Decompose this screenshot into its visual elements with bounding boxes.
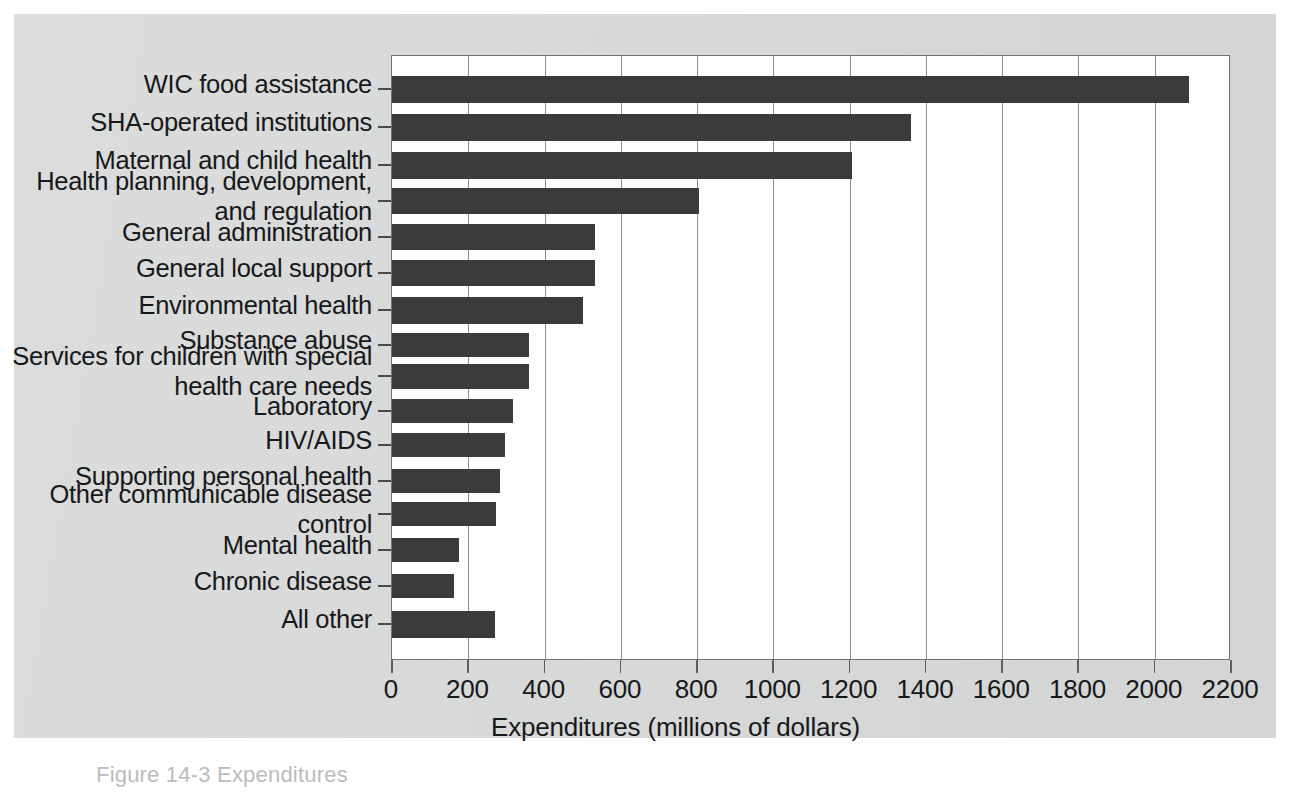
- bar: [392, 364, 529, 389]
- bar: [392, 114, 911, 141]
- y-axis-label: All other: [281, 604, 372, 634]
- gridline-x-600: [621, 56, 622, 659]
- y-axis-tick: [378, 480, 391, 482]
- y-axis-tick: [378, 549, 391, 551]
- x-axis-tick: [849, 660, 851, 673]
- gridline-x-400: [545, 56, 546, 659]
- x-axis-tick-label: 2000: [1125, 674, 1182, 705]
- y-axis-label: Mental health: [223, 530, 372, 560]
- x-axis-tick-label: 1600: [973, 674, 1030, 705]
- x-axis-tick: [544, 660, 546, 673]
- y-axis-label: Laboratory: [253, 391, 372, 421]
- y-axis-tick: [378, 164, 391, 166]
- x-axis-tick-label: 600: [598, 674, 641, 705]
- x-axis-tick-label: 2200: [1201, 674, 1258, 705]
- x-axis-tick: [620, 660, 622, 673]
- bar: [392, 76, 1189, 103]
- bar: [392, 333, 529, 357]
- y-axis-tick: [378, 513, 391, 515]
- y-axis-tick: [378, 88, 391, 90]
- y-axis-tick: [378, 344, 391, 346]
- bar: [392, 399, 513, 423]
- x-axis-tick-label: 1200: [820, 674, 877, 705]
- y-axis-tick: [378, 272, 391, 274]
- gridline-x-200: [468, 56, 469, 659]
- figure-caption: Figure 14-3 Expenditures: [96, 762, 348, 788]
- y-axis-label: Chronic disease: [194, 566, 372, 596]
- x-axis-tick: [1230, 660, 1232, 673]
- y-axis-tick: [378, 200, 391, 202]
- y-axis-tick: [378, 309, 391, 311]
- y-axis-tick: [378, 410, 391, 412]
- gridline-x-1000: [773, 56, 774, 659]
- gridline-x-2000: [1155, 56, 1156, 659]
- y-axis-label: SHA-operated institutions: [90, 107, 372, 137]
- gridline-x-1800: [1078, 56, 1079, 659]
- y-axis-tick: [378, 444, 391, 446]
- y-axis-tick: [378, 585, 391, 587]
- bar: [392, 538, 459, 562]
- bar: [392, 469, 500, 493]
- y-axis-label: HIV/AIDS: [265, 425, 372, 455]
- gridline-x-1600: [1002, 56, 1003, 659]
- figure-page: WIC food assistanceSHA-operated institut…: [0, 0, 1295, 795]
- gridline-x-1400: [926, 56, 927, 659]
- bar: [392, 297, 583, 324]
- x-axis-tick-label: 0: [384, 674, 398, 705]
- gridline-x-800: [697, 56, 698, 659]
- gridline-x-1200: [850, 56, 851, 659]
- y-axis-label: General local support: [136, 253, 372, 283]
- x-axis-tick: [1077, 660, 1079, 673]
- bar: [392, 188, 699, 214]
- x-axis-tick: [1001, 660, 1003, 673]
- bar: [392, 260, 595, 286]
- x-axis-title: Expenditures (millions of dollars): [0, 712, 1295, 743]
- x-axis-tick: [696, 660, 698, 673]
- x-axis-tick-label: 1000: [744, 674, 801, 705]
- x-axis-tick-label: 200: [446, 674, 489, 705]
- bar: [392, 152, 852, 179]
- bar: [392, 433, 505, 457]
- bar: [392, 574, 454, 598]
- x-axis-tick-label: 400: [522, 674, 565, 705]
- chart-plot-area: [391, 55, 1230, 660]
- bar: [392, 502, 496, 526]
- y-axis-label: WIC food assistance: [144, 69, 372, 99]
- y-axis-tick: [378, 375, 391, 377]
- y-axis-tick: [378, 623, 391, 625]
- x-axis-tick: [925, 660, 927, 673]
- x-axis-tick: [772, 660, 774, 673]
- bar: [392, 611, 495, 638]
- y-axis-tick: [378, 126, 391, 128]
- x-axis-tick-label: 800: [675, 674, 718, 705]
- bar: [392, 224, 595, 250]
- y-axis-label: General administration: [122, 217, 372, 247]
- x-axis-tick: [391, 660, 393, 673]
- y-axis-tick: [378, 236, 391, 238]
- x-axis-tick-label: 1800: [1049, 674, 1106, 705]
- x-axis-tick-label: 1400: [896, 674, 953, 705]
- x-axis-title-text: Expenditures (millions of dollars): [491, 712, 860, 743]
- x-axis-tick: [467, 660, 469, 673]
- x-axis-tick: [1154, 660, 1156, 673]
- y-axis-label: Environmental health: [138, 290, 372, 320]
